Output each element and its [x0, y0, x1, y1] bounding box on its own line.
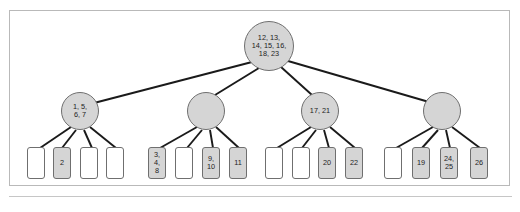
leaf-node-10: 20 [318, 147, 336, 179]
tree-edge [396, 127, 433, 148]
tree-edge [302, 130, 316, 148]
tree-edge [160, 127, 197, 148]
leaf-node-8 [265, 147, 283, 179]
tree-edge [281, 67, 312, 95]
leaf-node-12 [384, 147, 402, 179]
tree-edge [216, 127, 239, 148]
btree-diagram: 12, 13, 14, 15, 16, 18, 231, 5, 6, 717, … [0, 0, 520, 212]
leaf-node-2 [80, 147, 98, 179]
tree-edge [94, 62, 252, 103]
tree-edge [84, 130, 92, 148]
internal-node-2: 17, 21 [301, 92, 339, 130]
tree-edge [210, 130, 213, 148]
tree-edge [452, 127, 480, 148]
internal-node-3 [423, 92, 461, 130]
leaf-node-9 [292, 147, 310, 179]
tree-edge [277, 127, 311, 148]
leaf-node-1: 2 [53, 147, 71, 179]
tree-edge [330, 127, 355, 148]
leaf-node-15: 26 [470, 147, 488, 179]
leaf-node-6: 9, 10 [202, 147, 220, 179]
tree-edge [90, 127, 116, 148]
tree-edge [187, 130, 202, 148]
internal-node-0: 1, 5, 6, 7 [61, 92, 99, 130]
internal-node-1 [187, 92, 225, 130]
leaf-node-14: 24, 25 [440, 147, 458, 179]
leaf-node-11: 22 [345, 147, 363, 179]
leaf-node-0 [27, 147, 45, 179]
leaf-node-7: 11 [229, 147, 247, 179]
root-node: 12, 13, 14, 15, 16, 18, 23 [244, 21, 294, 71]
tree-edge [324, 130, 329, 148]
tree-edge [40, 127, 71, 148]
tree-edge [446, 130, 450, 148]
leaf-node-4: 3, 4, 8 [148, 147, 166, 179]
leaf-node-5 [175, 147, 193, 179]
leaf-node-3 [106, 147, 124, 179]
leaf-node-13: 19 [412, 147, 430, 179]
tree-edge [215, 68, 259, 95]
